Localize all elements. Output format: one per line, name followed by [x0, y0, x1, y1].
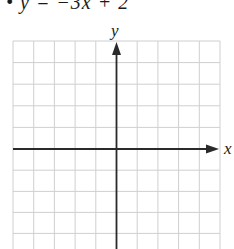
y-axis: [112, 42, 121, 249]
y-axis-arrow-icon: [112, 42, 121, 55]
y-axis-label: y: [109, 21, 119, 40]
coordinate-grid: x y: [0, 0, 234, 249]
x-axis-label: x: [223, 139, 232, 158]
x-axis-arrow-icon: [206, 145, 219, 154]
